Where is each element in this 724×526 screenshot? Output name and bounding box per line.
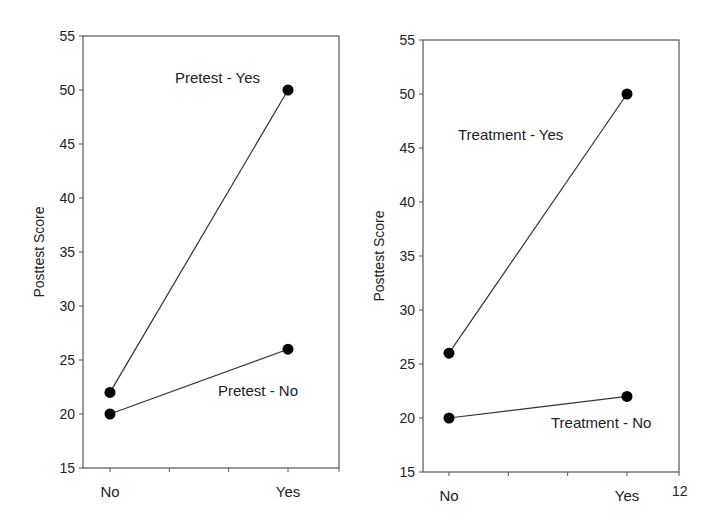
y-tick-label: 50	[399, 86, 415, 102]
series-label: Treatment - No	[551, 414, 651, 431]
y-tick-label: 15	[59, 460, 75, 476]
series-line: Pretest - No	[105, 344, 299, 420]
y-axis-label: Posttest Score	[31, 206, 47, 297]
y-tick-label: 40	[399, 194, 415, 210]
series-label: Pretest - No	[218, 382, 298, 399]
series-label: Pretest - Yes	[175, 69, 260, 86]
page-number: 12	[672, 483, 688, 499]
chart-2: 152025303540455055NoYesPosttest ScoreTre…	[371, 32, 679, 504]
y-tick-label: 30	[399, 302, 415, 318]
y-tick-label: 15	[399, 464, 415, 480]
y-tick-label: 25	[59, 352, 75, 368]
data-point	[105, 387, 116, 398]
charts-canvas: 152025303540455055NoYesPosttest ScorePre…	[0, 0, 724, 526]
y-tick-label: 20	[399, 410, 415, 426]
x-category-label: Yes	[615, 487, 639, 504]
y-tick-label: 45	[399, 140, 415, 156]
series-label: Treatment - Yes	[458, 126, 563, 143]
y-tick-label: 35	[59, 244, 75, 260]
x-category-label: No	[100, 483, 119, 500]
chart-1: 152025303540455055NoYesPosttest ScorePre…	[31, 28, 339, 500]
y-tick-label: 45	[59, 136, 75, 152]
x-category-label: No	[439, 487, 458, 504]
data-point	[283, 344, 294, 355]
data-point	[283, 85, 294, 96]
series-line: Treatment - No	[444, 391, 652, 431]
data-point	[444, 413, 455, 424]
series-segment	[110, 90, 288, 392]
plot-frame	[83, 36, 339, 468]
y-tick-label: 35	[399, 248, 415, 264]
data-point	[444, 348, 455, 359]
y-tick-label: 25	[399, 356, 415, 372]
y-tick-label: 40	[59, 190, 75, 206]
y-tick-label: 55	[399, 32, 415, 48]
data-point	[622, 391, 633, 402]
y-tick-label: 30	[59, 298, 75, 314]
y-tick-label: 55	[59, 28, 75, 44]
y-tick-label: 20	[59, 406, 75, 422]
data-point	[105, 409, 116, 420]
x-category-label: Yes	[276, 483, 300, 500]
plot-frame	[423, 40, 679, 472]
data-point	[622, 89, 633, 100]
y-tick-label: 50	[59, 82, 75, 98]
series-line: Treatment - Yes	[444, 89, 633, 359]
y-axis-label: Posttest Score	[371, 210, 387, 301]
series-line: Pretest - Yes	[105, 69, 294, 398]
